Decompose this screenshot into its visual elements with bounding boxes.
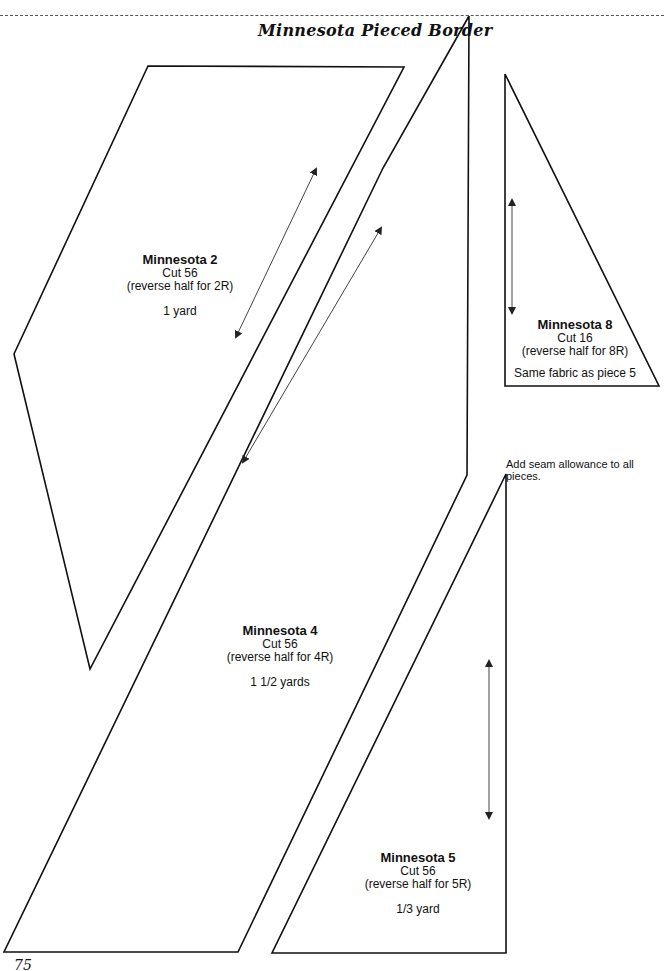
page-title: Minnesota Pieced Border: [258, 21, 493, 40]
piece-minnesota-2-outline: [14, 66, 404, 669]
piece-name: Minnesota 2: [120, 253, 240, 267]
piece-label-minnesota-5: Minnesota 5 Cut 56 (reverse half for 5R)…: [348, 851, 488, 916]
piece-reverse: (reverse half for 4R): [205, 651, 355, 664]
piece-reverse: (reverse half for 2R): [120, 280, 240, 293]
piece-name: Minnesota 4: [205, 624, 355, 638]
grain-arrow-4: [243, 228, 381, 462]
piece-label-minnesota-4: Minnesota 4 Cut 56 (reverse half for 4R)…: [205, 624, 355, 689]
piece-name: Minnesota 8: [500, 318, 650, 332]
piece-label-minnesota-2: Minnesota 2 Cut 56 (reverse half for 2R)…: [120, 253, 240, 318]
piece-label-minnesota-8: Minnesota 8 Cut 16 (reverse half for 8R)…: [500, 318, 650, 380]
piece-minnesota-4-outline: [4, 16, 469, 952]
page-footer: 75: [14, 957, 32, 971]
piece-fabric: 1 1/2 yards: [205, 676, 355, 689]
piece-reverse: (reverse half for 5R): [348, 878, 488, 891]
piece-fabric: 1 yard: [120, 305, 240, 318]
pattern-shapes: [0, 0, 664, 971]
piece-fabric: 1/3 yard: [348, 903, 488, 916]
piece-reverse: (reverse half for 8R): [500, 345, 650, 358]
piece-fabric: Same fabric as piece 5: [500, 367, 650, 380]
seam-allowance-note: Add seam allowance to all pieces.: [506, 458, 664, 482]
piece-name: Minnesota 5: [348, 851, 488, 865]
